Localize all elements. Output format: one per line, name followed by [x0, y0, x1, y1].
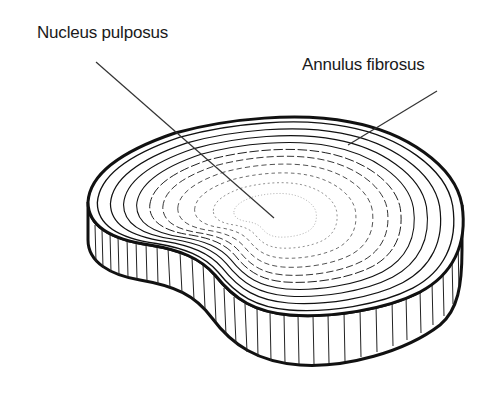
intervertebral-disc-illustration	[0, 0, 498, 415]
disc-top-surface	[88, 117, 463, 316]
